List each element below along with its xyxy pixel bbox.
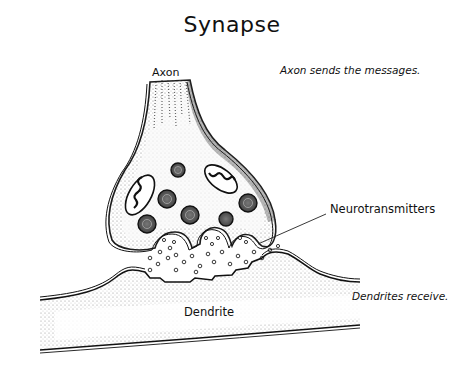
- dendrite-label: Dendrite: [184, 305, 234, 319]
- dendrite-caption: Dendrites receive.: [352, 290, 448, 302]
- axon-caption: Axon sends the messages.: [280, 64, 420, 76]
- axon-label: Axon: [152, 66, 179, 79]
- axon-terminal: [106, 80, 276, 252]
- neurotransmitters-label: Neurotransmitters: [330, 202, 435, 216]
